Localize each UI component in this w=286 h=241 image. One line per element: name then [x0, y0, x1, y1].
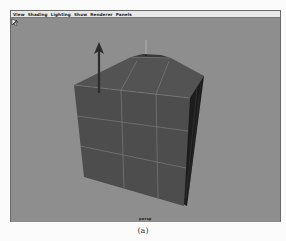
menu-panels[interactable]: Panels [116, 12, 132, 17]
axis-gizmo-icon [11, 18, 19, 26]
menu-renderer[interactable]: Renderer [90, 12, 113, 17]
camera-label: persp [139, 217, 152, 221]
figure-caption: (a) [0, 226, 286, 235]
panel-menu-bar: View Shading Lighting Show Renderer Pane… [11, 11, 280, 18]
maya-viewport-window: View Shading Lighting Show Renderer Pane… [10, 10, 281, 222]
cube-front-face [74, 85, 190, 206]
menu-show[interactable]: Show [74, 12, 87, 17]
menu-lighting[interactable]: Lighting [51, 12, 71, 17]
menu-shading[interactable]: Shading [28, 12, 48, 17]
3d-viewport[interactable]: persp [11, 18, 280, 222]
scene-canvas[interactable] [11, 18, 282, 222]
menu-view[interactable]: View [13, 12, 25, 17]
